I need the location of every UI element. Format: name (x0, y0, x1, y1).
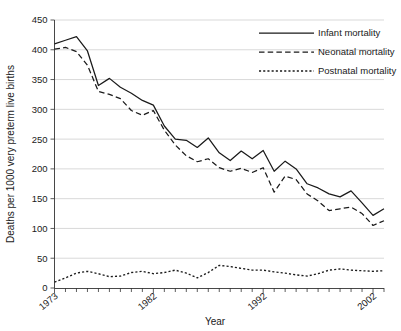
chart-legend: Infant mortalityNeonatal mortalityPostna… (259, 27, 396, 76)
y-tick-label: 450 (32, 14, 48, 25)
y-tick-label: 50 (37, 253, 48, 264)
x-axis-ticks: 1973198219922002 (37, 288, 384, 312)
legend-label: Infant mortality (318, 27, 381, 38)
y-tick-label: 300 (32, 104, 48, 115)
y-tick-label: 0 (42, 282, 47, 293)
y-tick-label: 150 (32, 193, 48, 204)
x-tick-label: 1982 (135, 290, 158, 312)
y-tick-label: 100 (32, 223, 48, 234)
x-tick-label: 1973 (37, 290, 60, 312)
y-axis-title: Deaths per 1000 very preterm live births (5, 65, 16, 243)
series-dotted (55, 265, 385, 282)
y-tick-label: 400 (32, 44, 48, 55)
legend-label: Neonatal mortality (318, 46, 395, 57)
y-tick-label: 250 (32, 134, 48, 145)
y-axis-ticks: 050100150200250300350400450 (32, 14, 55, 293)
chart-svg: 050100150200250300350400450 197319821992… (0, 0, 401, 331)
x-tick-label: 1992 (245, 290, 268, 312)
legend-label: Postnatal mortality (318, 65, 396, 76)
x-tick-label: 2002 (355, 290, 378, 312)
y-tick-label: 200 (32, 163, 48, 174)
chart-figure: 050100150200250300350400450 197319821992… (0, 0, 401, 331)
x-axis-title: Year (205, 316, 226, 327)
series-solid (55, 37, 385, 216)
y-tick-label: 350 (32, 74, 48, 85)
